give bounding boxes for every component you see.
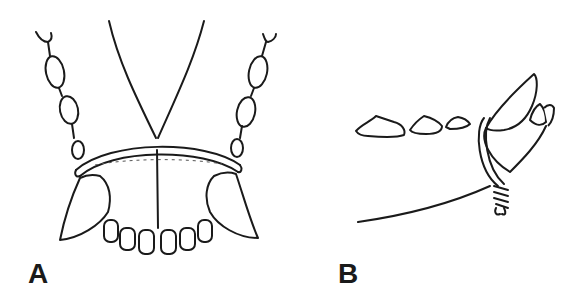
wire-twist-ends [495, 208, 505, 215]
left-chain-link [48, 42, 50, 56]
left-upper-tooth-3 [72, 141, 84, 159]
right-chain-link [251, 88, 254, 96]
panel-label-b: B [338, 260, 358, 288]
left-canine [60, 175, 110, 240]
panel-b-drawing [356, 74, 554, 222]
wire-twist-coils [494, 186, 508, 208]
lateral-canine [486, 74, 537, 131]
incisor-6 [198, 220, 212, 242]
wire-band-inner [80, 154, 238, 176]
figure-canvas [0, 0, 584, 305]
right-canine [207, 173, 258, 238]
right-jaw-line [158, 21, 204, 138]
panel-label-a: A [28, 260, 48, 288]
right-upper-tooth-2 [234, 95, 258, 128]
left-chain-link [72, 124, 74, 138]
jaw-lower-line [358, 186, 490, 222]
right-upper-tooth-1 [246, 54, 270, 89]
right-chain-link [262, 42, 266, 56]
incisor-3 [139, 230, 154, 254]
left-jaw-line [109, 21, 156, 138]
left-chain-hook-icon [36, 32, 52, 42]
left-chain-link [59, 88, 62, 96]
incisor-4 [161, 230, 176, 254]
incisor-5 [180, 228, 195, 250]
panel-a-drawing [36, 21, 276, 254]
wire-band-right-end [238, 165, 241, 172]
right-upper-tooth-3 [231, 139, 243, 157]
wire-band-left-end [75, 170, 80, 177]
midline [157, 150, 158, 228]
right-chain-hook-icon [263, 34, 276, 42]
right-chain-link [240, 126, 242, 138]
incisor-2 [120, 228, 135, 250]
incisor-1 [104, 220, 118, 242]
molar-1 [356, 116, 405, 137]
molar-3 [446, 117, 470, 129]
left-upper-tooth-2 [57, 94, 80, 125]
molar-2 [410, 116, 442, 134]
left-upper-tooth-1 [43, 54, 67, 89]
jaw-tip [484, 126, 546, 172]
